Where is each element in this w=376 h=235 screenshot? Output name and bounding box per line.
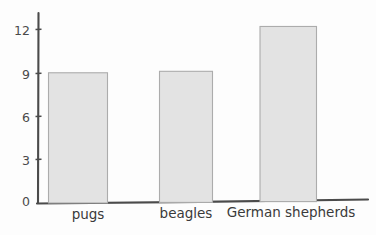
bar-beagles	[160, 71, 213, 202]
y-tick-label-0: 0	[8, 194, 30, 209]
y-tick-label-3: 3	[8, 153, 30, 168]
bar-pugs	[49, 73, 108, 203]
bar-german-shepherds	[260, 26, 317, 201]
y-tick-label-9: 9	[8, 67, 30, 82]
x-category-label-pugs: pugs	[72, 206, 105, 222]
chart-plot-area	[0, 0, 376, 235]
bar-chart: 12 9 6 3 0 pugs beagles German shepherds	[0, 0, 376, 235]
x-category-label-beagles: beagles	[160, 205, 213, 221]
y-axis-line	[38, 13, 39, 203]
y-tick-label-6: 6	[8, 110, 30, 125]
x-category-label-german-shepherds: German shepherds	[227, 204, 356, 220]
y-tick-label-12: 12	[8, 23, 30, 38]
